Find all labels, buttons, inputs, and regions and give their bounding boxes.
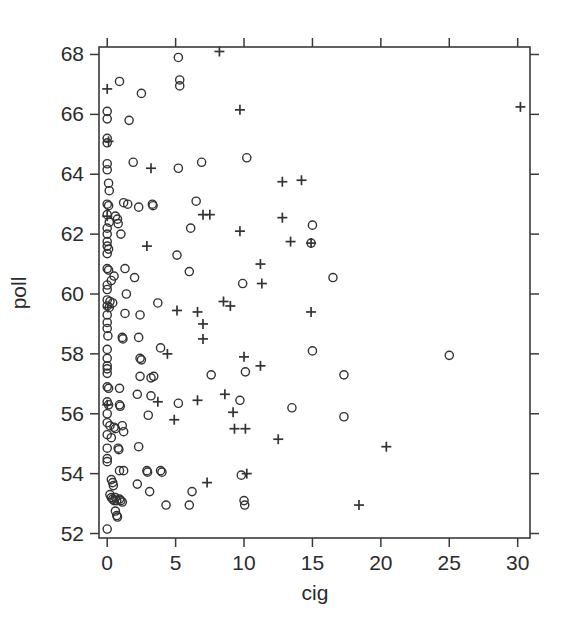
axis-ticks (90, 38, 539, 547)
data-point-plus (169, 415, 179, 425)
data-point-plus (515, 102, 525, 112)
y-tick-label: 66 (61, 102, 84, 125)
data-point-plus (198, 319, 208, 329)
plot-frame (99, 47, 530, 538)
data-point-circle (192, 197, 200, 205)
data-point-plus (240, 424, 250, 434)
data-point-circle (185, 267, 193, 275)
data-point-plus (381, 442, 391, 452)
data-point-circle (174, 164, 182, 172)
y-tick-label: 52 (61, 522, 84, 545)
y-tick-label: 56 (61, 402, 84, 425)
data-point-plus (354, 500, 364, 510)
data-point-plus (146, 163, 156, 173)
data-point-circle (136, 372, 144, 380)
data-point-plus (202, 478, 212, 488)
data-point-circle (135, 333, 143, 341)
x-tick-label: 30 (506, 551, 529, 574)
x-tick-label: 5 (170, 551, 182, 574)
data-point-plus (228, 407, 238, 417)
data-point-plus (193, 307, 203, 317)
data-point-plus (205, 210, 215, 220)
data-point-circle (176, 82, 184, 90)
data-point-plus (286, 237, 296, 247)
data-point-circle (174, 399, 182, 407)
data-markers-layer (102, 46, 525, 533)
x-tick-label: 20 (369, 551, 392, 574)
data-point-plus (229, 424, 239, 434)
data-point-circle (239, 279, 247, 287)
data-point-circle (135, 203, 143, 211)
data-point-plus (172, 305, 182, 315)
x-tick-label: 10 (232, 551, 255, 574)
data-point-circle (115, 77, 123, 85)
data-point-circle (445, 351, 453, 359)
data-point-circle (129, 158, 137, 166)
data-point-circle (308, 347, 316, 355)
data-point-circle (329, 273, 337, 281)
data-point-plus (219, 296, 229, 306)
y-tick-label: 64 (61, 162, 85, 185)
data-point-circle (103, 345, 111, 353)
data-point-circle (187, 224, 195, 232)
x-tick-label: 25 (438, 551, 461, 574)
data-point-plus (102, 84, 112, 94)
data-point-circle (103, 166, 111, 174)
plot-canvas: 051015202530525456586062646668 cig poll (0, 0, 571, 630)
data-point-circle (207, 371, 215, 379)
data-point-plus (104, 136, 114, 146)
data-point-plus (255, 259, 265, 269)
data-point-plus (235, 226, 245, 236)
data-point-circle (115, 384, 123, 392)
data-point-circle (154, 299, 162, 307)
data-point-plus (306, 307, 316, 317)
data-point-plus (193, 395, 203, 405)
data-point-plus (297, 175, 307, 185)
data-point-plus (277, 177, 287, 187)
data-point-circle (125, 116, 133, 124)
data-point-plus (142, 241, 152, 251)
data-point-circle (133, 480, 141, 488)
data-point-plus (306, 238, 316, 248)
data-point-circle (243, 154, 251, 162)
data-point-circle (136, 311, 144, 319)
data-point-circle (241, 368, 249, 376)
y-axis-title: poll (7, 277, 30, 310)
data-point-plus (277, 213, 287, 223)
y-tick-label: 62 (61, 222, 84, 245)
data-point-circle (133, 390, 141, 398)
data-point-plus (198, 334, 208, 344)
data-point-plus (242, 469, 252, 479)
data-point-plus (239, 352, 249, 362)
y-tick-label: 58 (61, 342, 84, 365)
data-point-circle (174, 53, 182, 61)
x-axis-title: cig (302, 581, 329, 604)
data-point-circle (121, 264, 129, 272)
data-point-circle (146, 487, 154, 495)
y-tick-label: 54 (61, 462, 85, 485)
axis-tick-labels: 051015202530525456586062646668 (61, 42, 530, 574)
data-point-circle (156, 344, 164, 352)
data-point-circle (173, 251, 181, 259)
data-point-circle (135, 443, 143, 451)
data-point-circle (236, 396, 244, 404)
data-point-plus (235, 105, 245, 115)
data-point-plus (220, 389, 230, 399)
x-tick-label: 0 (101, 551, 113, 574)
data-point-circle (122, 290, 130, 298)
data-point-circle (288, 404, 296, 412)
y-tick-label: 60 (61, 282, 84, 305)
data-point-plus (214, 46, 224, 56)
scatter-plot-figure: 051015202530525456586062646668 cig poll (0, 0, 571, 630)
data-point-circle (103, 444, 111, 452)
data-point-circle (121, 309, 129, 317)
data-point-circle (150, 372, 158, 380)
x-tick-label: 15 (301, 551, 324, 574)
data-point-circle (162, 501, 170, 509)
data-point-plus (255, 361, 265, 371)
data-point-circle (308, 221, 316, 229)
y-tick-label: 68 (61, 42, 84, 65)
data-point-circle (340, 413, 348, 421)
data-point-circle (188, 487, 196, 495)
data-point-circle (103, 410, 111, 418)
